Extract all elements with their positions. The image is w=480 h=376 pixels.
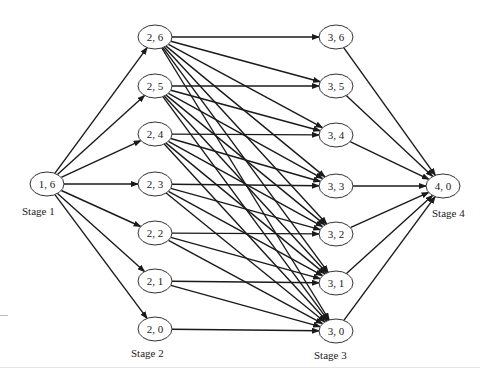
- stage-3-label: Stage 3: [314, 349, 347, 361]
- node-label: 3, 0: [328, 325, 345, 337]
- bottom-border-line: [0, 367, 480, 368]
- node-3-2: 3, 2: [319, 222, 353, 246]
- edge-3,5-to-4,0: [346, 96, 433, 177]
- node-2-5: 2, 5: [138, 74, 172, 98]
- edge-1,6-to-2,5: [57, 95, 144, 174]
- edge-3,4-to-4,0: [350, 142, 429, 180]
- node-label: 3, 1: [328, 277, 345, 289]
- node-label: 2, 0: [147, 323, 164, 335]
- edges: [55, 37, 435, 331]
- edge-2,6-to-3,3: [166, 46, 325, 177]
- node-2-0: 2, 0: [138, 317, 172, 341]
- edge-artifact-line: [0, 315, 8, 316]
- node-label: 2, 6: [147, 31, 164, 43]
- node-label: 2, 1: [147, 275, 164, 287]
- node-label: 2, 5: [147, 80, 164, 92]
- node-1-6: 1, 6: [30, 172, 64, 196]
- edge-2,2-to-3,2: [172, 233, 319, 234]
- stage-1-label: Stage 1: [22, 205, 55, 217]
- node-2-4: 2, 4: [138, 122, 172, 146]
- edge-2,5-to-3,4: [171, 90, 320, 130]
- node-2-2: 2, 2: [138, 221, 172, 245]
- edge-2,6-to-3,5: [171, 41, 320, 81]
- node-3-1: 3, 1: [319, 271, 353, 295]
- edge-2,0-to-3,0: [172, 329, 319, 331]
- node-label: 3, 2: [328, 228, 345, 240]
- edge-3,6-to-4,0: [344, 48, 436, 176]
- node-label: 3, 3: [328, 180, 345, 192]
- edge-2,1-to-3,0: [171, 285, 320, 326]
- node-label: 3, 4: [328, 129, 345, 141]
- edge-2,3-to-3,3: [172, 184, 319, 186]
- node-label: 1, 6: [39, 178, 56, 190]
- node-2-3: 2, 3: [138, 172, 172, 196]
- edge-3,1-to-4,0: [346, 195, 432, 273]
- node-2-6: 2, 6: [138, 25, 172, 49]
- staged-network-diagram: 1, 62, 62, 52, 42, 32, 22, 12, 03, 63, 5…: [0, 0, 480, 376]
- node-label: 3, 5: [328, 80, 345, 92]
- node-3-5: 3, 5: [319, 74, 353, 98]
- edge-2,3-to-3,2: [171, 188, 320, 229]
- edge-2,2-to-3,1: [171, 237, 320, 278]
- stage-2-label: Stage 2: [131, 347, 164, 359]
- edge-2,4-to-3,4: [172, 134, 319, 135]
- edge-1,6-to-2,2: [61, 190, 140, 226]
- node-3-0: 3, 0: [319, 319, 353, 343]
- node-4-0: 4, 0: [426, 174, 460, 198]
- edge-1,6-to-2,6: [55, 48, 147, 174]
- node-label: 2, 2: [147, 227, 164, 239]
- node-label: 3, 6: [328, 31, 345, 43]
- edge-1,6-to-2,1: [58, 193, 145, 271]
- edge-1,6-to-2,4: [61, 141, 141, 178]
- node-2-1: 2, 1: [138, 269, 172, 293]
- node-label: 2, 3: [147, 178, 164, 190]
- edge-2,1-to-3,1: [172, 281, 319, 283]
- node-3-4: 3, 4: [319, 123, 353, 147]
- node-3-3: 3, 3: [319, 174, 353, 198]
- node-label: 4, 0: [435, 180, 452, 192]
- node-label: 2, 4: [147, 128, 164, 140]
- edge-3,0-to-4,0: [344, 197, 435, 321]
- node-3-6: 3, 6: [319, 25, 353, 49]
- edge-1,6-to-2,0: [55, 195, 147, 319]
- stage-4-label: Stage 4: [432, 207, 465, 219]
